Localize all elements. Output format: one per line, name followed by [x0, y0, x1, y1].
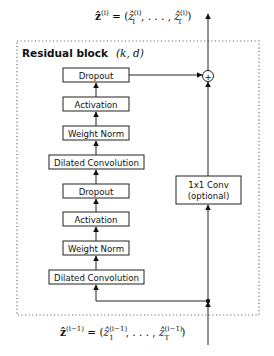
svg-text:Activation: Activation: [74, 100, 117, 110]
output-label: ẑ(i) = (ẑ(i)1, . . . , ẑ(i)T): [95, 9, 191, 26]
activation-block-top: Activation: [63, 97, 129, 111]
svg-text:Activation: Activation: [74, 215, 117, 225]
dropout-block-bottom: Dropout: [63, 184, 129, 198]
activation-block-bottom: Activation: [63, 212, 129, 226]
residual-block-diagram: Residual block (k, d) ẑ(i) = (ẑ(i)1, . .…: [0, 0, 274, 356]
input-label: ẑ(i−1) = (ẑ(i−1)1, . . . , ẑ(i−1)T): [60, 325, 185, 342]
weight-norm-block-top: Weight Norm: [63, 126, 129, 140]
svg-text:Dropout: Dropout: [79, 71, 114, 81]
svg-text:1x1 Conv: 1x1 Conv: [188, 180, 229, 190]
svg-text:Weight Norm: Weight Norm: [68, 244, 124, 254]
dilated-convolution-block-top: Dilated Convolution: [49, 155, 144, 169]
conv-1x1-optional-block: 1x1 Conv (optional): [176, 176, 241, 204]
sum-symbol: +: [204, 72, 211, 82]
svg-text:Dilated Convolution: Dilated Convolution: [54, 158, 139, 168]
weight-norm-block-bottom: Weight Norm: [63, 241, 129, 255]
dropout-block-top: Dropout: [63, 68, 129, 82]
svg-text:Weight Norm: Weight Norm: [68, 129, 124, 139]
svg-text:Dilated Convolution: Dilated Convolution: [54, 273, 139, 283]
block-title: Residual block (k, d): [22, 43, 144, 60]
svg-text:(optional): (optional): [188, 191, 230, 201]
svg-text:Dropout: Dropout: [79, 187, 114, 197]
dilated-convolution-block-bottom: Dilated Convolution: [49, 270, 144, 284]
main-path-entry-arrow: [96, 285, 208, 301]
